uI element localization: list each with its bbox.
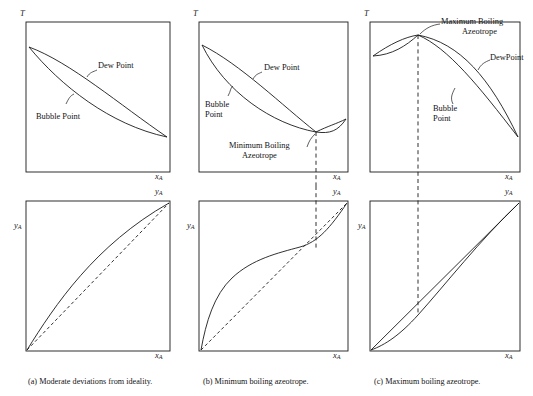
panel-b-dew-leader xyxy=(253,72,262,79)
panel-c-bottom-y-axis-corner-label: yA xyxy=(505,186,513,196)
panel-c-azeotrope-leader xyxy=(420,24,440,34)
panel-b-top-y-axis-label: T xyxy=(193,8,198,18)
panel-c-bubble-point-curve-left xyxy=(373,35,418,56)
panel-a-top-x-axis-label: xA xyxy=(155,171,163,181)
panel-b-diagonal-dashed xyxy=(201,203,347,350)
panel-a-diagonal-dashed xyxy=(27,203,169,350)
panel-a-top-y-axis-label: T xyxy=(20,8,25,18)
panel-c-dew-point-label: DewPoint xyxy=(490,53,524,63)
panel-b-dew-point-label: Dew Point xyxy=(264,63,300,73)
figure-vle-phase-diagrams: T xA yA yA xA T xA yA yA xA T xA yA yA x… xyxy=(0,0,533,396)
panel-c-azeotrope-label: Maximum Boiling Azeotrope xyxy=(441,17,503,37)
panel-a-top-frame xyxy=(26,22,170,172)
panel-c-dew-point-curve-left xyxy=(373,35,418,56)
panel-c-caption: (c) Maximum boiling azeotrope. xyxy=(374,377,480,386)
panel-b-bottom-y-axis-label: yA xyxy=(187,220,195,230)
panel-b-bottom-x-axis-label: xA xyxy=(333,350,341,360)
panel-c-bottom-x-axis-label: xA xyxy=(505,350,513,360)
panel-c-diagonal-solid xyxy=(371,203,519,350)
panel-b-dew-point-curve-right xyxy=(316,119,346,132)
panel-c-bottom-y-axis-label: yA xyxy=(358,220,366,230)
panel-b-bottom-frame xyxy=(199,201,348,351)
panel-b-bubble-point-label: Bubble Point xyxy=(205,100,229,120)
panel-a-bottom-x-axis-label: xA xyxy=(155,350,163,360)
panel-b-azeotrope-label: Minimum Boiling Azeotrope xyxy=(229,141,290,161)
diagram-canvas xyxy=(0,0,533,396)
panel-c-top-y-axis-label: T xyxy=(364,8,369,18)
panel-a-dew-point-label: Dew Point xyxy=(98,61,134,71)
panel-a-bottom-y-axis-corner-label: yA xyxy=(155,186,163,196)
panel-a-bottom-y-axis-label: yA xyxy=(14,220,22,230)
panel-a-bubble-point-label: Bubble Point xyxy=(36,112,80,122)
panel-c-bubble-point-label: Bubble Point xyxy=(433,104,457,124)
panel-b-top-x-axis-label: xA xyxy=(333,171,341,181)
panel-c-bubble-leader xyxy=(452,88,455,104)
panel-c-dew-leader xyxy=(478,60,490,70)
panel-a-dew-leader xyxy=(87,70,97,77)
panel-a-bubble-leader xyxy=(66,94,74,104)
panel-b-azeotrope-leader xyxy=(307,134,315,147)
panel-c-top-x-axis-label: xA xyxy=(505,171,513,181)
panel-a-caption: (a) Moderate deviations from ideality. xyxy=(28,377,152,386)
panel-b-caption: (b) Minimum boiling azeotrope. xyxy=(203,377,309,386)
panel-b-bottom-y-axis-corner-label: yA xyxy=(333,186,341,196)
